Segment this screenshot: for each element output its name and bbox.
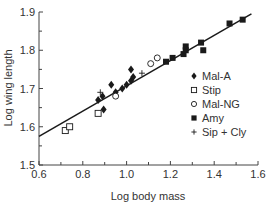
open-circle-icon [191, 101, 196, 106]
filled-square-icon [170, 55, 176, 61]
open-square-icon [95, 110, 101, 116]
legend-label: Mal-A [202, 70, 231, 82]
filled-diamond-icon [119, 85, 125, 93]
plus-icon [191, 129, 196, 134]
x-tick-label: 0.8 [75, 168, 90, 180]
x-axis-title: Log body mass [111, 190, 186, 202]
x-tick-label: 1.0 [119, 168, 134, 180]
open-square-icon [67, 124, 73, 130]
filled-diamond-icon [191, 72, 196, 79]
open-circle-icon [148, 61, 154, 67]
x-tick-label: 1.4 [207, 168, 222, 180]
open-circle-icon [113, 93, 119, 99]
y-tick-label: 1.6 [20, 121, 35, 133]
open-circle-icon [154, 55, 160, 61]
y-tick-label: 1.5 [20, 159, 35, 171]
legend-label: Stip [202, 84, 221, 96]
filled-diamond-icon [128, 65, 134, 73]
filled-diamond-icon [108, 81, 114, 89]
filled-square-icon [183, 43, 189, 49]
legend: Mal-AStipMal-NGAmySip + Cly [191, 70, 246, 138]
legend-label: Mal-NG [202, 98, 240, 110]
x-tick-label: 1.2 [163, 168, 178, 180]
filled-square-icon [240, 17, 246, 23]
scatter-chart: 0.60.81.01.21.41.61.51.61.71.81.9 Mal-AS… [0, 0, 266, 207]
y-tick-label: 1.7 [20, 83, 35, 95]
filled-square-icon [163, 59, 169, 65]
y-axis-title: Log wing length [2, 49, 14, 126]
x-tick-label: 1.6 [250, 168, 265, 180]
legend-label: Amy [202, 112, 225, 124]
open-square-icon [191, 87, 196, 92]
filled-square-icon [227, 20, 233, 26]
filled-square-icon [198, 40, 204, 46]
filled-square-icon [200, 47, 206, 53]
filled-square-icon [191, 115, 196, 120]
y-tick-label: 1.8 [20, 44, 35, 56]
legend-label: Sip + Cly [202, 126, 247, 138]
y-tick-label: 1.9 [20, 6, 35, 18]
axes: 0.60.81.01.21.41.61.51.61.71.81.9 [20, 6, 266, 180]
